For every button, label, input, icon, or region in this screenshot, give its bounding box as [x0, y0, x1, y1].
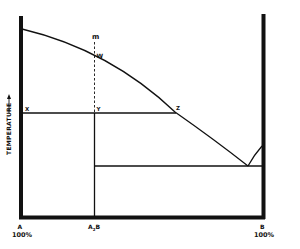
label-a-percent: 100% — [12, 231, 33, 239]
phase-diagram: m W X Y Z TEMPERATURE A 100% A2B B 100% — [0, 0, 300, 249]
y-axis-label: TEMPERATURE — [5, 103, 12, 155]
label-m: m — [92, 33, 99, 41]
label-y: Y — [96, 106, 102, 112]
label-w: W — [97, 52, 104, 59]
label-b-percent: 100% — [254, 231, 275, 239]
label-x: X — [25, 106, 30, 112]
label-a2b: A2B — [88, 223, 100, 232]
label-a: A — [18, 223, 23, 230]
label-z: Z — [176, 105, 180, 111]
liquidus-curve-b — [248, 146, 262, 166]
liquidus-curve-a — [22, 29, 248, 166]
label-b: B — [260, 223, 265, 230]
